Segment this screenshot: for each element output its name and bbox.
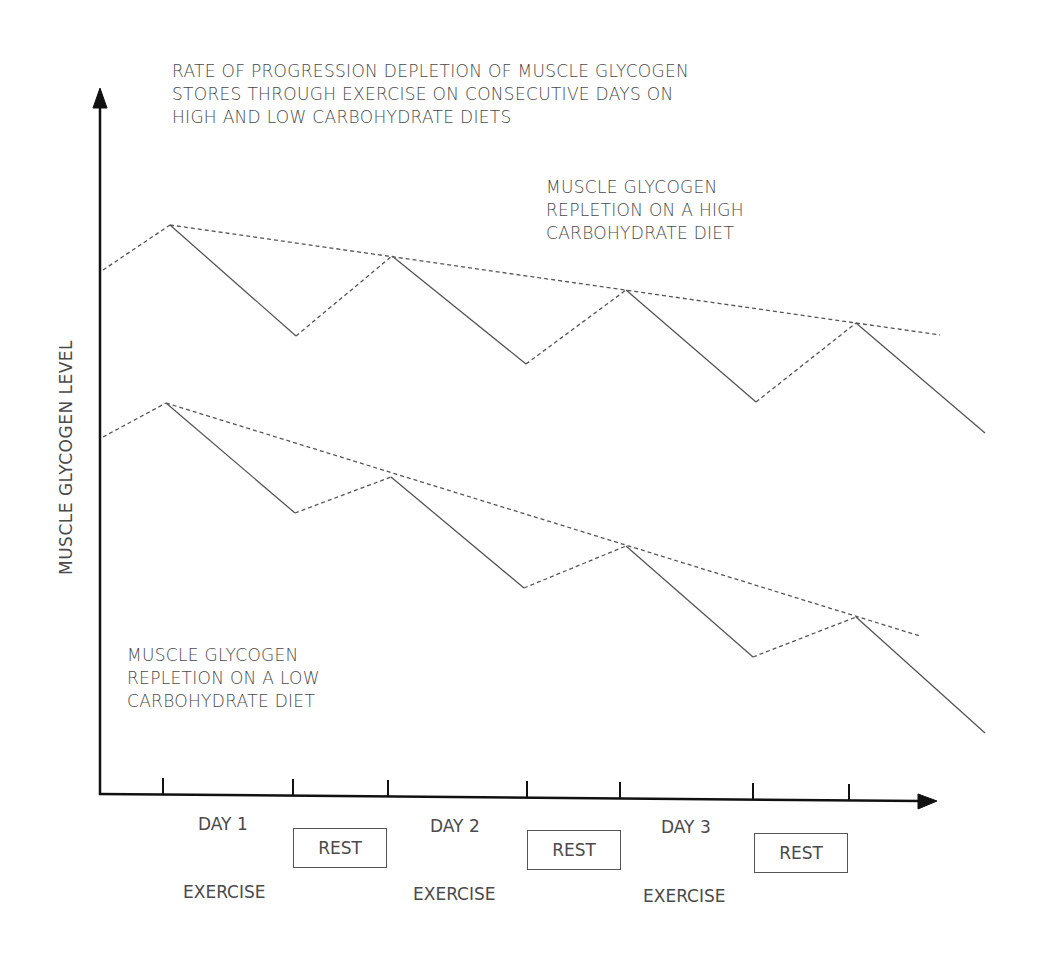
high-depletion-1: [170, 225, 296, 336]
rest-box-3: REST: [754, 833, 848, 873]
annotation-high-line-1: MUSCLE GLYCOGEN: [546, 176, 744, 199]
rest-box-2: REST: [527, 830, 621, 870]
chart-plot: [0, 0, 1039, 958]
annotation-low-carb: MUSCLE GLYCOGEN REPLETION ON A LOW CARBO…: [127, 644, 320, 713]
low-peak-trend: [166, 403, 920, 636]
exercise-label-3: EXERCISE: [643, 886, 726, 906]
low-repletion-3: [753, 617, 856, 657]
y-axis-label-text: MUSCLE GLYCOGEN LEVEL: [56, 340, 76, 575]
high-repletion-3: [756, 323, 856, 402]
high-repletion-0: [103, 225, 170, 270]
annotation-high-line-2: REPLETION ON A HIGH: [546, 199, 744, 222]
series-high-carb: [103, 225, 985, 433]
high-depletion-2: [392, 256, 526, 364]
high-repletion-1: [296, 256, 392, 336]
exercise-label-2: EXERCISE: [413, 884, 496, 904]
exercise-label-1: EXERCISE: [183, 882, 266, 902]
low-depletion-1: [166, 403, 295, 513]
annotation-low-line-2: REPLETION ON A LOW: [127, 667, 320, 690]
rest-label-2: REST: [552, 840, 596, 860]
low-repletion-2: [524, 546, 626, 588]
low-depletion-3: [626, 546, 753, 657]
annotation-high-carb: MUSCLE GLYCOGEN REPLETION ON A HIGH CARB…: [546, 176, 744, 245]
day-label-2: DAY 2: [430, 816, 480, 836]
low-repletion-1: [295, 477, 391, 513]
y-axis-arrow-icon: [93, 88, 107, 108]
annotation-low-line-1: MUSCLE GLYCOGEN: [127, 644, 320, 667]
low-repletion-0: [103, 403, 166, 437]
x-axis-arrow-icon: [918, 794, 937, 809]
rest-label-1: REST: [318, 838, 362, 858]
rest-box-1: REST: [293, 828, 387, 868]
low-depletion-4: [856, 617, 985, 733]
high-repletion-2: [526, 290, 626, 364]
x-axis: [99, 794, 922, 801]
rest-label-3: REST: [779, 843, 823, 863]
annotation-high-line-3: CARBOHYDRATE DIET: [546, 222, 744, 245]
annotation-low-line-3: CARBOHYDRATE DIET: [127, 690, 320, 713]
day-label-3: DAY 3: [661, 817, 711, 837]
high-depletion-3: [626, 290, 756, 402]
low-depletion-2: [391, 477, 524, 588]
day-label-1: DAY 1: [198, 814, 248, 834]
high-depletion-4: [856, 323, 985, 433]
